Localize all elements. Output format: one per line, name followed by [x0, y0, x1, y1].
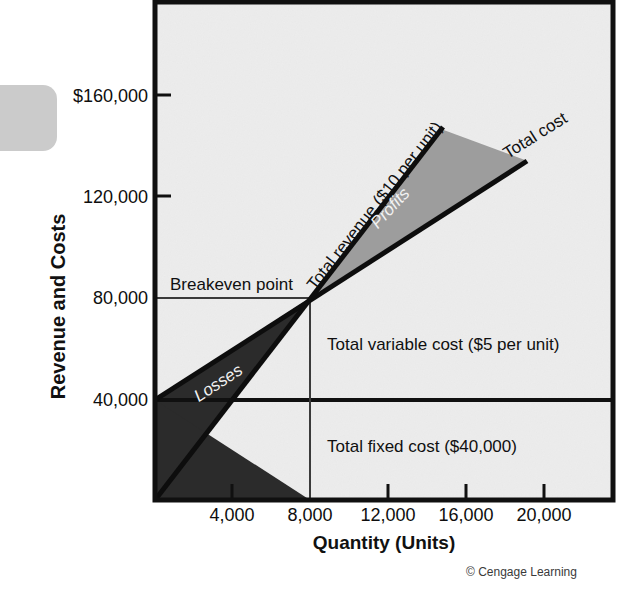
- plot-canvas: [0, 0, 640, 594]
- copyright-credit: © Cengage Learning: [466, 565, 577, 579]
- total-fixed-cost-label: Total fixed cost ($40,000): [327, 437, 517, 457]
- total-variable-cost-label: Total variable cost ($5 per unit): [327, 335, 559, 355]
- breakeven-point-label: Breakeven point: [170, 275, 293, 295]
- x-axis-title: Quantity (Units): [155, 532, 613, 554]
- breakeven-chart-figure: Revenue and Costs $160,000 120,000 80,00…: [0, 0, 640, 594]
